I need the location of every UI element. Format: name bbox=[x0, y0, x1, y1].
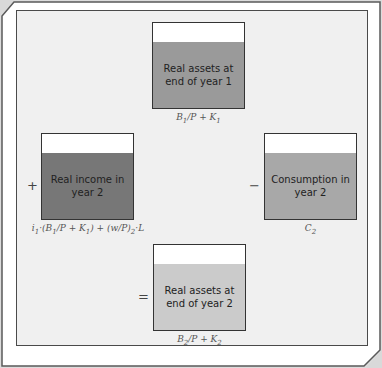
box-body: Real assets at end of year 1 bbox=[153, 42, 244, 108]
box-header bbox=[265, 134, 356, 154]
equals-operator: = bbox=[138, 289, 149, 304]
box-body: Consumption in year 2 bbox=[265, 153, 356, 219]
box-real-assets-year1: Real assets at end of year 1 bbox=[152, 22, 245, 109]
box-real-income-year2: Real income in year 2 bbox=[41, 133, 134, 220]
label-consumption-formula: C2 bbox=[264, 223, 357, 236]
box-real-assets-year2: Real assets at end of year 2 bbox=[153, 244, 246, 331]
label-assets-year2-formula: B2/P + K2 bbox=[153, 334, 246, 347]
label-income-formula: i1·(B1/P + K1) + (w/P)2·L bbox=[20, 223, 156, 236]
label-assets-year1-formula: B1/P + K1 bbox=[152, 112, 245, 125]
box-header bbox=[154, 245, 245, 265]
box-header bbox=[153, 23, 244, 43]
box-body: Real income in year 2 bbox=[42, 153, 133, 219]
box-header bbox=[42, 134, 133, 154]
box-body: Real assets at end of year 2 bbox=[154, 264, 245, 330]
plus-operator: + bbox=[27, 178, 38, 193]
box-consumption-year2: Consumption in year 2 bbox=[264, 133, 357, 220]
minus-operator: − bbox=[249, 178, 260, 193]
